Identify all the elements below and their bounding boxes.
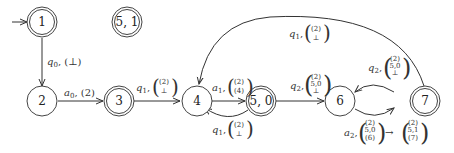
svg-text:6: 6 (336, 94, 344, 108)
svg-text:): ) (323, 71, 332, 99)
label-50-4: q1, ( (2) ⊥ ) (212, 117, 254, 141)
svg-text:(4): (4) (234, 87, 244, 95)
label-1-2: q0, (⊥) (47, 56, 82, 69)
svg-text:): ) (420, 119, 429, 147)
edge-7-6 (355, 85, 394, 92)
svg-text:q0, (⊥): q0, (⊥) (47, 56, 82, 69)
svg-text:(7): (7) (408, 134, 418, 142)
svg-text:⊥: ⊥ (236, 130, 243, 138)
svg-text:q1,: q1, (212, 124, 226, 137)
svg-text:5,1: 5,1 (407, 126, 418, 134)
svg-text:→: → (385, 127, 394, 138)
svg-text:a1,: a1, (212, 82, 226, 95)
svg-text:): ) (402, 54, 411, 82)
label-6-7: a2, ( (2) 5,0 (6) ) → ( (2) 5,1 (7) ) (344, 119, 429, 147)
svg-text:(6): (6) (365, 134, 375, 142)
svg-text:): ) (246, 117, 254, 141)
svg-text:(2): (2) (311, 25, 321, 33)
svg-text:(2): (2) (234, 121, 244, 129)
svg-text:): ) (171, 75, 179, 99)
node-3: 3 (104, 86, 134, 116)
node-7: 7 (410, 86, 440, 116)
svg-text:4: 4 (193, 94, 201, 108)
node-2: 2 (27, 86, 57, 116)
label-2-3: a0, (2) (64, 87, 95, 100)
svg-text:7: 7 (421, 94, 429, 108)
label-3-4: q1, ( (2) ⊥ ) (136, 75, 179, 99)
svg-text:a2,: a2, (344, 127, 358, 140)
label-7-4: q1, ( (2) ⊥ ) (289, 21, 331, 45)
svg-text:3: 3 (115, 94, 123, 108)
svg-text:q1,: q1, (289, 28, 303, 41)
svg-text:a0, (2): a0, (2) (64, 87, 95, 100)
edge-6-7 (355, 108, 394, 115)
node-1: 1 (27, 7, 57, 37)
label-7-6: q2, ( (2) 5,0 ⊥ ) (368, 54, 411, 82)
state-diagram: 1 5, 1 2 3 4 5, 0 6 7 q0, (⊥) a0, (2) q1… (0, 0, 454, 153)
svg-text:⊥: ⊥ (313, 87, 320, 95)
svg-text:2: 2 (38, 94, 46, 108)
node-4: 4 (182, 86, 212, 116)
svg-text:(2): (2) (159, 78, 169, 86)
svg-text:q2,: q2, (368, 62, 382, 75)
label-4-50: a1, ( (2) (4) ) (212, 75, 254, 99)
svg-text:⊥: ⊥ (161, 87, 168, 95)
svg-text:1: 1 (38, 15, 46, 29)
svg-text:⊥: ⊥ (313, 34, 320, 42)
svg-text:⊥: ⊥ (392, 69, 399, 77)
label-50-6: q2, ( (2) 5,0 ⊥ ) (290, 71, 332, 99)
svg-text:q1,: q1, (136, 82, 150, 95)
svg-text:): ) (246, 75, 254, 99)
svg-text:5,0: 5,0 (364, 126, 375, 134)
edge-50-4 (205, 108, 248, 117)
svg-text:(2): (2) (234, 78, 244, 86)
node-5-1: 5, 1 (112, 7, 142, 37)
svg-text:5, 1: 5, 1 (116, 15, 139, 29)
svg-text:q2,: q2, (290, 80, 304, 93)
svg-text:): ) (323, 21, 331, 45)
